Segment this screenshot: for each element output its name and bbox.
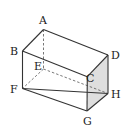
vertex-label-h: H bbox=[111, 88, 121, 101]
vertex-label-e: E bbox=[34, 60, 42, 73]
vertex-label-b: B bbox=[10, 45, 18, 58]
prism-diagram: ABCDEFGH bbox=[0, 0, 127, 129]
vertex-label-c: C bbox=[86, 72, 94, 85]
edge-ab bbox=[23, 30, 44, 52]
vertex-label-g: G bbox=[83, 115, 92, 128]
edge-ad bbox=[44, 30, 109, 56]
edge-bc bbox=[23, 51, 88, 77]
vertex-label-d: D bbox=[111, 49, 120, 62]
vertex-label-f: F bbox=[10, 83, 18, 96]
vertex-label-a: A bbox=[38, 14, 48, 27]
